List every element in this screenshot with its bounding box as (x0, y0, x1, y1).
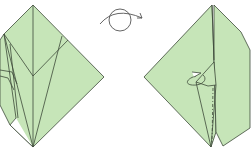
left-model (0, 5, 104, 147)
origami-diagram (0, 0, 251, 152)
turn-over-icon (100, 9, 142, 31)
right-model-right-half (214, 5, 250, 146)
right-model (144, 5, 250, 147)
